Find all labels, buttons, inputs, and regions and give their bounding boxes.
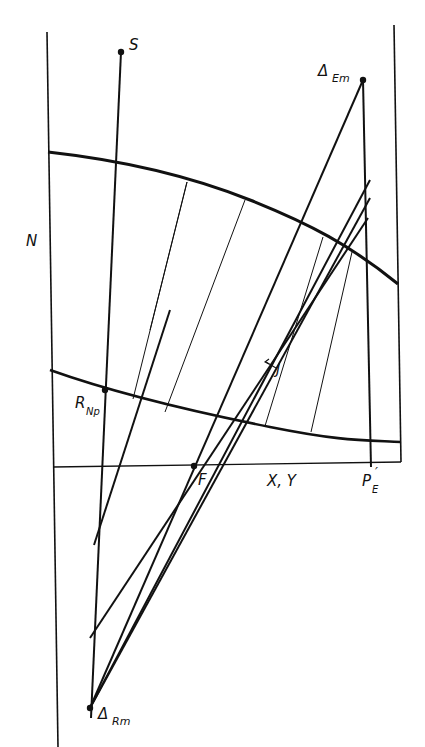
label-delta-rm-sub: Rm xyxy=(112,715,130,728)
tie-lines xyxy=(133,182,352,432)
point-delta-rm xyxy=(87,705,93,711)
label-p-e-sub: E xyxy=(372,484,379,495)
label-delta-em: Δ xyxy=(317,62,328,80)
point-s xyxy=(118,49,124,55)
left-axis-line xyxy=(47,32,58,747)
label-p-e-prime: ′ xyxy=(375,464,378,479)
x-y-axis-line xyxy=(53,462,401,467)
label-p-e: P xyxy=(362,472,372,490)
extraction-diagram: S N Δ Em R Np J F X, Y P ′ E Δ Rm xyxy=(0,0,425,747)
point-delta-em xyxy=(360,77,366,83)
extract-curve xyxy=(48,152,398,284)
point-r-np xyxy=(102,387,108,393)
right-axis-line xyxy=(394,25,401,462)
point-f xyxy=(191,463,197,469)
label-x-y: X, Y xyxy=(266,472,298,490)
label-delta-rm: Δ xyxy=(97,705,108,723)
raffinate-curve xyxy=(50,370,401,442)
label-n: N xyxy=(26,232,37,250)
label-delta-em-sub: Em xyxy=(332,72,350,85)
label-s: S xyxy=(129,36,139,54)
label-r-np-sub: Np xyxy=(86,406,100,417)
delta-em-vertical xyxy=(363,80,371,467)
operating-lines xyxy=(90,180,370,708)
label-f: F xyxy=(198,471,207,489)
label-r-np: R xyxy=(75,394,85,412)
